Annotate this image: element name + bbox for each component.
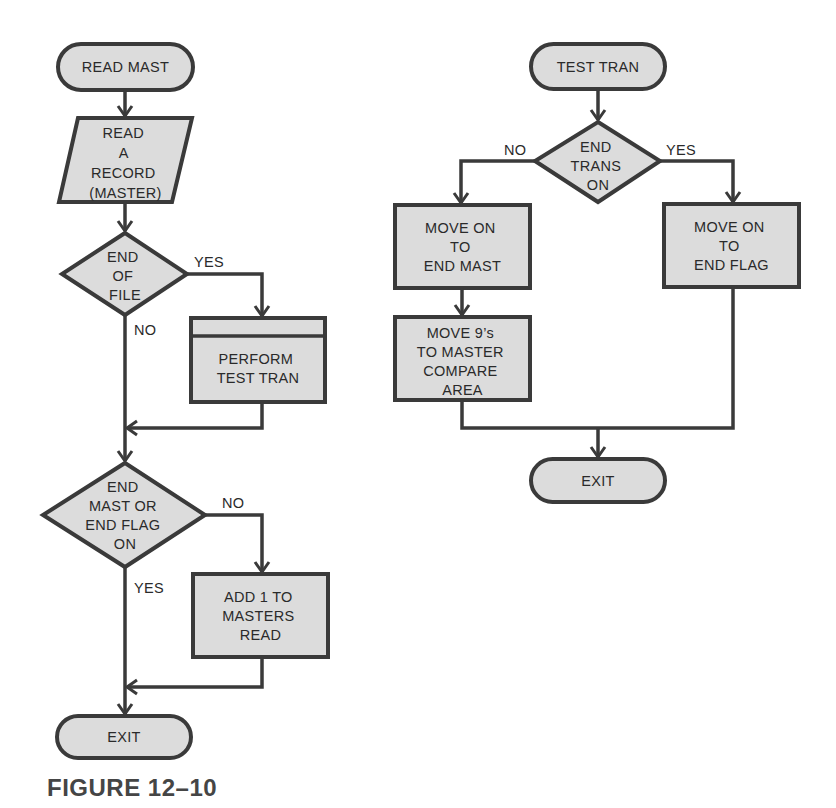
process-line: END MAST [424, 258, 501, 274]
decision-line: END [107, 249, 139, 265]
terminator-label: TEST TRAN [557, 59, 640, 75]
process-line: READ [240, 627, 282, 643]
process-move-nines: MOVE 9’s TO MASTER COMPARE AREA [395, 317, 530, 400]
process-line: TO [719, 238, 739, 254]
process-line: MASTERS [222, 608, 294, 624]
terminator-label: EXIT [107, 729, 140, 745]
decision-line: OF [112, 268, 133, 284]
edge-label-no: NO [134, 322, 156, 338]
process-line: MOVE 9’s [427, 325, 494, 341]
terminator-read-mast: READ MAST [58, 44, 193, 90]
edge-label-yes: YES [134, 580, 164, 596]
decision-line: END FLAG [85, 517, 160, 533]
decision-line: ON [587, 177, 609, 193]
edge-label-no: NO [222, 495, 244, 511]
decision-end-of-file: END OF FILE [62, 233, 187, 315]
terminator-test-tran: TEST TRAN [531, 44, 665, 89]
process-line: MOVE ON [694, 219, 765, 235]
decision-line: END [580, 139, 612, 155]
decision-line: ON [114, 536, 136, 552]
process-line: MOVE ON [425, 220, 496, 236]
terminator-exit-left: EXIT [57, 716, 191, 758]
io-read-record: READ A RECORD (MASTER) [59, 118, 192, 202]
right-flowchart: TEST TRAN END TRANS ON NO YES MOVE ON TO [395, 44, 799, 502]
io-line: READ [103, 125, 145, 141]
decision-end-mast-or-flag: END MAST OR END FLAG ON [43, 463, 205, 567]
flowchart-canvas: READ MAST READ A RECORD (MASTER) END OF … [0, 0, 836, 808]
decision-line: TRANS [571, 158, 622, 174]
process-line: TEST TRAN [217, 370, 300, 386]
figure-caption: FIGURE 12–10 [47, 774, 217, 801]
process-line: AREA [442, 382, 483, 398]
process-line: PERFORM [219, 351, 294, 367]
decision-line: MAST OR [89, 498, 157, 514]
process-line: COMPARE [423, 363, 497, 379]
decision-end-trans: END TRANS ON [535, 122, 660, 202]
terminator-exit-right: EXIT [531, 459, 665, 502]
process-perform-test-tran: PERFORM TEST TRAN [191, 318, 325, 402]
io-line: (MASTER) [89, 185, 161, 201]
process-line: TO [450, 239, 470, 255]
decision-line: END [107, 479, 139, 495]
io-line: A [119, 145, 129, 161]
edge-label-yes: YES [666, 142, 696, 158]
process-move-end-mast: MOVE ON TO END MAST [395, 205, 530, 288]
terminator-label: READ MAST [82, 59, 169, 75]
edge-label-no: NO [504, 142, 526, 158]
process-line: END FLAG [694, 257, 769, 273]
process-line: TO MASTER [417, 344, 504, 360]
io-line: RECORD [91, 165, 156, 181]
edge-label-yes: YES [194, 254, 224, 270]
process-move-end-flag: MOVE ON TO END FLAG [664, 204, 799, 287]
terminator-label: EXIT [581, 473, 614, 489]
process-line: ADD 1 TO [224, 589, 293, 605]
decision-line: FILE [109, 287, 141, 303]
left-flowchart: READ MAST READ A RECORD (MASTER) END OF … [43, 44, 328, 801]
process-add-one: ADD 1 TO MASTERS READ [193, 574, 328, 657]
